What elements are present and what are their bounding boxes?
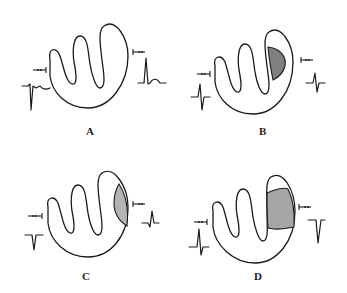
lesion-area — [267, 188, 294, 229]
right-ecg-waveform — [306, 73, 325, 92]
right-electrode-icon — [133, 201, 145, 207]
panel-label-b: B — [259, 126, 266, 137]
left-ecg-waveform — [25, 235, 43, 250]
left-ecg-waveform — [189, 229, 209, 255]
panel-label-a: A — [86, 126, 94, 137]
left-ecg-waveform — [191, 84, 210, 110]
left-electrode-icon — [28, 213, 42, 219]
left-electrode-icon — [33, 67, 46, 73]
right-electrode-icon — [301, 57, 313, 63]
right-ecg-waveform — [308, 220, 325, 243]
panel-c: C — [0, 145, 175, 293]
right-electrode-icon — [299, 204, 311, 210]
right-electrode-icon — [133, 49, 145, 55]
panel-label-d: D — [254, 271, 262, 282]
panel-label-c: C — [82, 271, 90, 282]
panel-a: A — [0, 0, 175, 145]
heart-section-b — [175, 0, 347, 145]
left-electrode-icon — [197, 71, 210, 77]
panel-b: B — [175, 0, 347, 145]
left-electrode-icon — [194, 219, 207, 225]
right-ecg-waveform — [138, 58, 166, 84]
ecg-infarct-diagram: A B — [0, 0, 347, 293]
right-ecg-waveform — [142, 211, 159, 227]
heart-section-a — [0, 0, 175, 145]
left-ecg-waveform — [22, 84, 50, 110]
ventricle-outline — [50, 24, 128, 108]
panel-d: D — [175, 145, 347, 293]
